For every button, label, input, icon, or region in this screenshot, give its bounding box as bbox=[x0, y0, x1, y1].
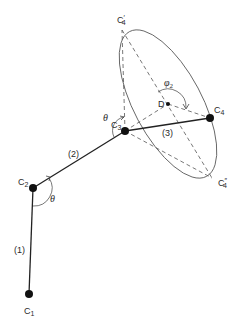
point-d bbox=[166, 102, 170, 106]
bond-2 bbox=[33, 131, 125, 188]
label-c2: C2 bbox=[18, 177, 29, 188]
label-theta-c2: θ bbox=[50, 193, 55, 204]
label-phi2: φ2 bbox=[164, 77, 174, 90]
label-bond-1: (1) bbox=[14, 245, 25, 255]
label-d: D bbox=[158, 99, 165, 109]
label-c4: C4 bbox=[214, 105, 225, 116]
atom-c2 bbox=[29, 184, 37, 192]
label-c3: C3 bbox=[111, 120, 122, 131]
label-c4prime: C′4 bbox=[117, 14, 126, 26]
label-c1: C1 bbox=[24, 306, 35, 317]
atom-c3 bbox=[121, 127, 129, 135]
cone-line-c3-c4doubleprime bbox=[125, 131, 212, 178]
label-c4doubleprime: C″4 bbox=[218, 177, 228, 189]
bond-1 bbox=[29, 188, 33, 294]
label-bond-2: (2) bbox=[68, 149, 79, 159]
label-theta-c3: θ bbox=[103, 112, 108, 123]
atom-c1 bbox=[25, 290, 33, 298]
linkage-diagram: C1 C2 C3 C4 D C′4 C″4 (1) (2) (3) θ θ φ2 bbox=[0, 0, 238, 326]
atom-c4 bbox=[206, 114, 214, 122]
label-bond-3: (3) bbox=[162, 128, 173, 138]
